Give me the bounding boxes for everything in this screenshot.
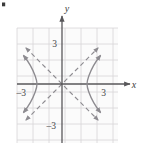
x-axis-label: x bbox=[131, 79, 137, 90]
graph-canvas: 3 –3 –3 3 x y bbox=[0, 0, 144, 147]
corner-marker bbox=[2, 3, 5, 7]
x-axis-tick-label-negative: –3 bbox=[16, 88, 27, 98]
plot-background bbox=[17, 28, 118, 143]
hyperbola-figure: 3 –3 –3 3 x y bbox=[0, 0, 144, 147]
y-axis-tick-label-negative: –3 bbox=[46, 121, 57, 131]
y-axis-label: y bbox=[64, 3, 70, 14]
x-axis-tick-label-positive: 3 bbox=[101, 88, 106, 98]
y-axis-tick-label-positive: 3 bbox=[52, 39, 57, 49]
